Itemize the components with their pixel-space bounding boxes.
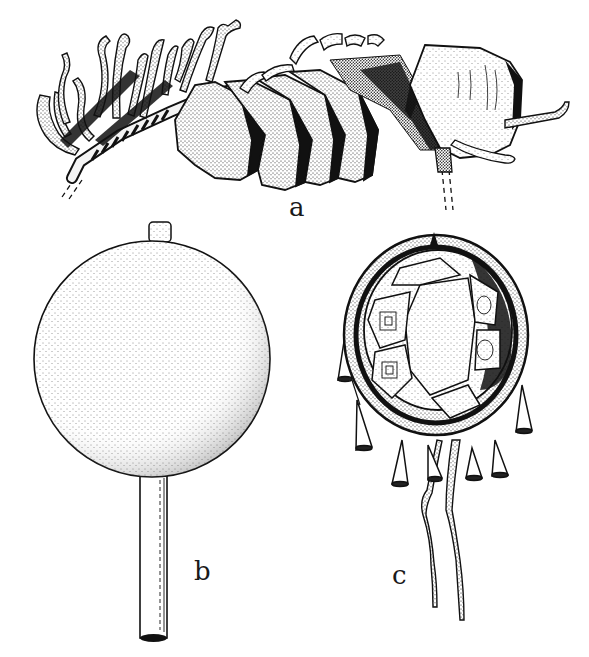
top-knob (149, 222, 171, 242)
pendant (516, 385, 532, 432)
scute (475, 330, 500, 370)
scute-central (405, 278, 475, 395)
panel-label-a: a (289, 194, 305, 220)
panel-a-branch-rattle (37, 20, 569, 210)
pendant (492, 440, 508, 476)
pendant (356, 400, 372, 450)
pendant (392, 440, 408, 484)
handle-stick (140, 470, 167, 638)
handle-end (140, 634, 167, 642)
panel-c-turtle-shell-rattle (338, 232, 532, 620)
illustration-plate (0, 0, 589, 657)
panel-label-c: c (392, 562, 407, 588)
stem-end (435, 148, 452, 172)
panel-label-b: b (194, 558, 211, 584)
thong-right (446, 440, 464, 620)
hanging-hoof-pieces (175, 70, 378, 190)
pendant (466, 448, 482, 478)
panel-b-disc-rattle (34, 222, 270, 642)
dashed-stick-continuation-right (442, 170, 453, 210)
